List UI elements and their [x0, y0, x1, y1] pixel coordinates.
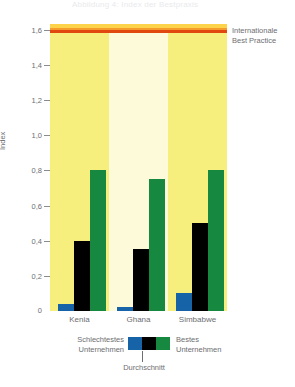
figure-title: Abbildung 4: Index der Bestpraxis — [72, 0, 232, 9]
legend-label-best-line1: Bestes — [176, 335, 256, 345]
legend-label-average: Durchschnitt — [98, 363, 190, 373]
bar-kenia-best — [90, 170, 106, 311]
y-tick-label: 0,2 — [2, 273, 42, 281]
legend-label-best: Bestes Unternehmen — [176, 335, 256, 354]
y-tick-label: 1,0 — [2, 132, 42, 140]
x-category-label: Simbabwe — [168, 316, 227, 324]
annotation-line-1: Internationale — [232, 26, 294, 36]
bar-ghana-average — [133, 249, 149, 311]
chart-figure: Abbildung 4: Index der Bestpraxis Index … — [0, 0, 295, 387]
legend-swatch-worst — [128, 337, 142, 350]
bar-ghana-worst — [117, 307, 133, 311]
legend-label-worst-line2: Unternehmen — [28, 345, 124, 355]
y-tick-label: 0,6 — [2, 203, 42, 211]
bar-ghana-best — [149, 179, 165, 311]
legend-swatch-best — [156, 337, 170, 350]
y-tick-label: 0,4 — [2, 238, 42, 246]
chart-legend: Schlechtestes Unternehmen Bestes Unterne… — [0, 334, 295, 387]
y-tick-label: 1,6 — [2, 27, 42, 35]
reference-line-best-practice — [50, 30, 227, 33]
x-category-label: Kenia — [50, 316, 109, 324]
legend-label-best-line2: Unternehmen — [176, 345, 256, 355]
annotation-line-2: Best Practice — [232, 36, 294, 46]
y-tick-label: 0,8 — [2, 167, 42, 175]
bar-simbabwe-average — [192, 223, 208, 311]
bar-simbabwe-best — [208, 170, 224, 311]
y-tick-label: 1,2 — [2, 97, 42, 105]
legend-leader-line — [142, 351, 143, 362]
bar-kenia-worst — [58, 304, 74, 311]
legend-swatches — [128, 337, 170, 350]
reference-line-annotation: Internationale Best Practice — [232, 26, 294, 45]
plot-area — [50, 24, 227, 311]
legend-label-worst: Schlechtestes Unternehmen — [28, 335, 124, 354]
bar-simbabwe-worst — [176, 293, 192, 311]
y-tick-label: 0 — [2, 307, 42, 315]
legend-swatch-average — [142, 337, 156, 350]
y-tick-label: 1,4 — [2, 62, 42, 70]
legend-label-worst-line1: Schlechtestes — [28, 335, 124, 345]
bar-kenia-average — [74, 241, 90, 311]
x-category-label: Ghana — [109, 316, 168, 324]
